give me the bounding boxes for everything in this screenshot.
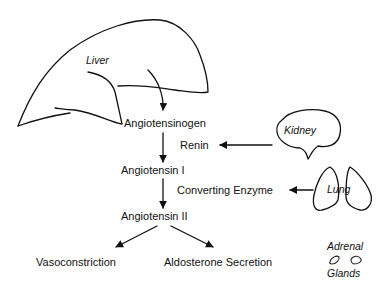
angiotensin-ii-label: Angiotensin II bbox=[121, 210, 188, 222]
vasoconstriction-arrow bbox=[116, 226, 157, 247]
adrenal-label: Adrenal bbox=[326, 240, 364, 252]
aldosterone-secretion-label: Aldosterone Secretion bbox=[164, 256, 272, 268]
angiotensinogen-label: Angiotensinogen bbox=[124, 117, 206, 129]
renin-angiotensin-diagram: Liver Angiotensinogen Renin Angiotensin … bbox=[0, 0, 388, 282]
converting-enzyme-label: Converting Enzyme bbox=[177, 184, 273, 196]
liver-icon bbox=[18, 20, 208, 126]
lung-label: Lung bbox=[327, 183, 351, 195]
liver-output-arrow bbox=[148, 70, 163, 110]
kidney-label: Kidney bbox=[284, 124, 317, 136]
adrenal-glands-icon bbox=[330, 256, 362, 264]
angiotensin-i-label: Angiotensin I bbox=[121, 164, 185, 176]
glands-label: Glands bbox=[327, 267, 361, 279]
renin-label: Renin bbox=[180, 139, 209, 151]
aldosterone-arrow bbox=[171, 226, 213, 247]
liver-label: Liver bbox=[86, 54, 109, 66]
vasoconstriction-label: Vasoconstriction bbox=[36, 256, 116, 268]
